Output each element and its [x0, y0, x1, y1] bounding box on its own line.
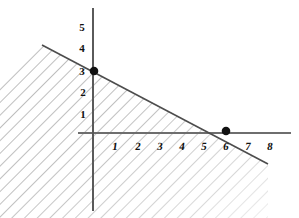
x-tick-label-5: 5 — [200, 141, 207, 152]
point-y-intercept — [90, 67, 99, 76]
y-tick-label-2: 2 — [80, 87, 86, 98]
y-tick-label-3: 3 — [79, 66, 85, 77]
y-tick-label-5: 5 — [79, 22, 85, 33]
x-tick-label-2: 2 — [134, 141, 141, 152]
point-x-intercept — [222, 127, 231, 136]
x-tick-label-6: 6 — [222, 141, 229, 152]
y-tick-label-4: 4 — [79, 43, 85, 54]
x-tick-label-7: 7 — [244, 141, 251, 152]
y-tick-label-1: 1 — [80, 109, 86, 120]
x-tick-label-4: 4 — [178, 141, 185, 152]
inequality-graph-figure: 5 4 3 2 1 1 2 3 4 5 6 7 8 — [0, 0, 299, 218]
plot-canvas — [0, 0, 299, 218]
x-tick-label-8: 8 — [266, 141, 273, 152]
shaded-region — [0, 30, 299, 218]
x-tick-label-3: 3 — [156, 141, 163, 152]
